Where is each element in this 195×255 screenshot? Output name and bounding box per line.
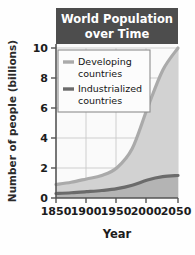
x-tick-label-1900: 1900 — [71, 205, 102, 218]
y-tick-label-8: 8 — [40, 72, 48, 85]
y-tick-labels: 0 2 4 6 8 10 — [33, 42, 49, 205]
y-tick-label-2: 2 — [40, 162, 48, 175]
chart-title-line2: over Time — [85, 27, 150, 41]
y-tick-label-4: 4 — [40, 132, 48, 145]
chart-title-line1: World Population — [61, 12, 173, 26]
x-tick-label-2050: 2050 — [161, 205, 192, 218]
world-population-area-chart: 0 2 4 6 8 10 1850 1900 1950 2000 2050 Ye… — [0, 0, 195, 255]
legend-label-industrialized-line1: Industrialized — [78, 83, 142, 94]
y-tick-label-10: 10 — [33, 42, 49, 55]
x-axis-label: Year — [102, 227, 132, 241]
x-tick-labels: 1850 1900 1950 2000 2050 — [41, 205, 192, 218]
legend-label-developing-line2: countries — [78, 68, 122, 79]
x-tick-label-1950: 1950 — [101, 205, 132, 218]
y-tick-label-0: 0 — [40, 192, 48, 205]
y-axis-label: Number of people (billions) — [6, 40, 18, 202]
chart-legend: Developing countries Industrialized coun… — [58, 50, 150, 112]
x-tick-label-2000: 2000 — [131, 205, 162, 218]
legend-label-industrialized-line2: countries — [78, 95, 122, 106]
y-tick-label-6: 6 — [40, 102, 48, 115]
x-tick-label-1850: 1850 — [41, 205, 72, 218]
chart-figure: 0 2 4 6 8 10 1850 1900 1950 2000 2050 Ye… — [0, 0, 195, 255]
legend-label-developing-line1: Developing — [78, 56, 132, 67]
